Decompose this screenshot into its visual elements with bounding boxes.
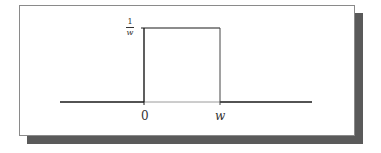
x-tick-label-w: w [215,110,225,122]
y-label-denominator: w [127,29,134,37]
uniform-density-plot [0,0,381,153]
y-tick-label-one-over-w: 1 w [126,18,134,37]
y-label-numerator: 1 [127,18,132,26]
x-tick-label-zero: 0 [141,110,149,122]
